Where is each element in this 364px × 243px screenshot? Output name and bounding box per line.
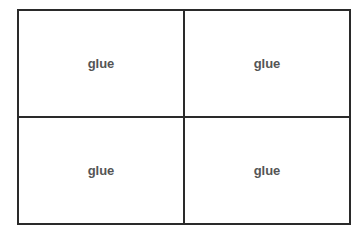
cell-label: glue <box>254 163 281 178</box>
cell-label: glue <box>254 56 281 71</box>
cell-label: glue <box>88 163 115 178</box>
grid-cell-top-left: glue <box>19 11 184 117</box>
grid-cell-top-right: glue <box>184 11 349 117</box>
cell-label: glue <box>88 56 115 71</box>
grid-cell-bottom-left: glue <box>19 117 184 223</box>
glue-grid: glue glue glue glue <box>17 9 351 225</box>
grid-cell-bottom-right: glue <box>184 117 349 223</box>
